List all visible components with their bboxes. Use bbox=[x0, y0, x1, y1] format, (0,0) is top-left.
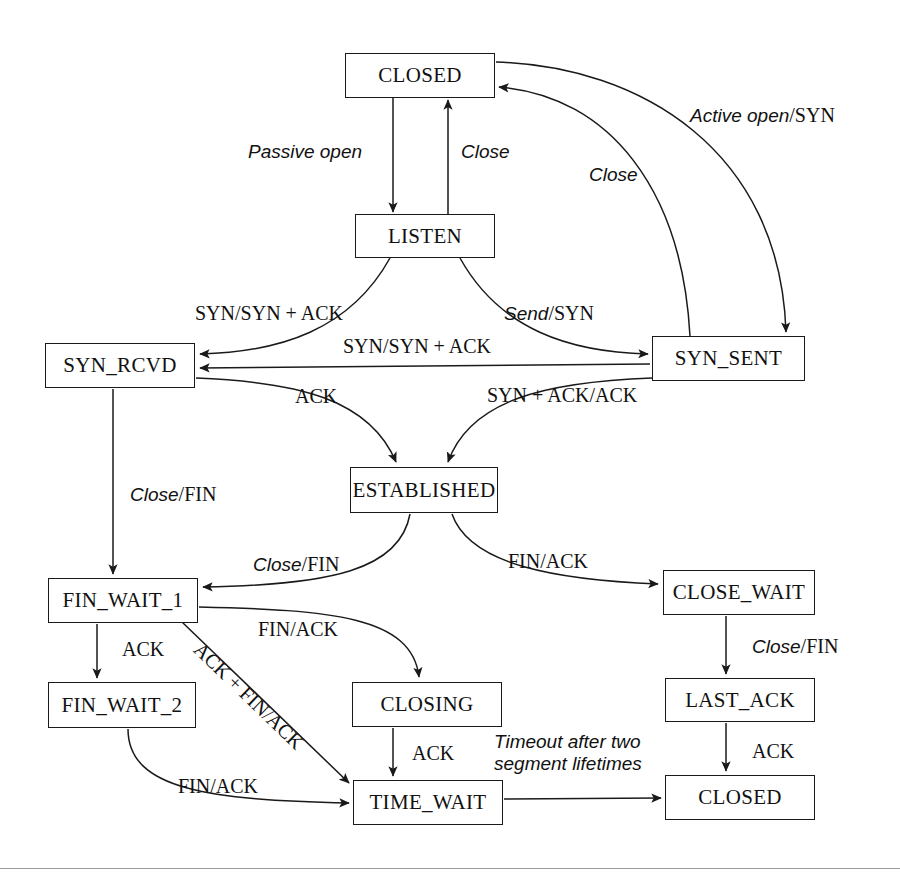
edge-label-syn-listen-text: SYN/SYN + ACK bbox=[195, 302, 343, 324]
edge-label-close-fin-cw: Close/FIN bbox=[752, 635, 838, 659]
edge-label-close-syn-sent-event: Close bbox=[589, 164, 638, 185]
edge-label-fin-ack-closing-text: FIN/ACK bbox=[258, 618, 338, 640]
edge-label-ack-closing-tw: ACK bbox=[412, 742, 454, 766]
state-closed-top[interactable]: CLOSED bbox=[345, 53, 495, 98]
state-fin-wait-1[interactable]: FIN_WAIT_1 bbox=[48, 578, 198, 623]
edge-label-passive-open: Passive open bbox=[248, 140, 362, 164]
edge-label-ack-established: ACK bbox=[295, 385, 337, 409]
edge-label-send-syn-event: Send bbox=[504, 303, 548, 324]
edge-active-open bbox=[496, 62, 786, 332]
edge-label-fin-ack-closing: FIN/ACK bbox=[258, 618, 338, 642]
edge-label-fin-ack-tw-text: FIN/ACK bbox=[178, 775, 258, 797]
edge-label-fin-ack-estab-text: FIN/ACK bbox=[508, 550, 588, 572]
edge-label-close-fin-rcvd-action: /FIN bbox=[179, 483, 217, 505]
edge-label-close-syn-sent: Close bbox=[589, 163, 638, 187]
edge-label-syn-ack-ack-text: SYN + ACK/ACK bbox=[487, 384, 637, 406]
state-time-wait[interactable]: TIME_WAIT bbox=[353, 780, 503, 825]
edge-label-ack-last-text: ACK bbox=[752, 740, 794, 762]
edge-label-ack-fw2: ACK bbox=[122, 638, 164, 662]
state-fin-wait-2[interactable]: FIN_WAIT_2 bbox=[48, 682, 196, 728]
edge-label-active-open: Active open/SYN bbox=[690, 104, 835, 128]
tcp-state-diagram: CLOSED LISTEN SYN_RCVD SYN_SENT ESTABLIS… bbox=[0, 0, 900, 877]
edge-label-syn-listen: SYN/SYN + ACK bbox=[195, 302, 343, 326]
edge-label-timeout: Timeout after two segment lifetimes bbox=[494, 731, 709, 776]
state-established[interactable]: ESTABLISHED bbox=[350, 467, 498, 513]
page-bottom-rule bbox=[0, 868, 900, 869]
edge-label-close-fin-rcvd-event: Close bbox=[130, 484, 179, 505]
edge-label-active-open-event: Active open bbox=[690, 105, 789, 126]
edge-label-active-open-action: /SYN bbox=[789, 104, 835, 126]
edge-label-syn-syn-sent: SYN/SYN + ACK bbox=[343, 335, 491, 359]
edge-label-send-syn: Send/SYN bbox=[504, 302, 594, 326]
edge-label-syn-ack-ack: SYN + ACK/ACK bbox=[487, 384, 637, 408]
edge-close-syn-sent bbox=[499, 87, 690, 336]
edge-label-close-fin-cw-action: /FIN bbox=[801, 635, 839, 657]
edge-label-ack-established-text: ACK bbox=[295, 385, 337, 407]
edge-label-close-fin-cw-event: Close bbox=[752, 636, 801, 657]
edge-label-close-fin-estab: Close/FIN bbox=[253, 553, 339, 577]
state-syn-rcvd[interactable]: SYN_RCVD bbox=[45, 343, 195, 388]
edge-label-ack-last: ACK bbox=[752, 740, 794, 764]
edge-label-timeout-line1: Timeout after two bbox=[494, 731, 641, 752]
edge-label-timeout-line2: segment lifetimes bbox=[494, 753, 642, 774]
state-closed-bottom[interactable]: CLOSED bbox=[665, 775, 815, 820]
edge-syn-syn-sent bbox=[200, 364, 650, 368]
edge-label-close-listen: Close bbox=[461, 140, 510, 164]
edge-timeout bbox=[504, 798, 661, 799]
edge-label-close-fin-estab-action: /FIN bbox=[302, 553, 340, 575]
state-close-wait[interactable]: CLOSE_WAIT bbox=[663, 570, 815, 615]
edge-label-fin-ack-tw: FIN/ACK bbox=[178, 775, 258, 799]
edge-label-fin-ack-estab: FIN/ACK bbox=[508, 550, 588, 574]
state-listen[interactable]: LISTEN bbox=[355, 214, 495, 258]
edge-label-syn-syn-sent-text: SYN/SYN + ACK bbox=[343, 335, 491, 357]
edge-label-send-syn-action: /SYN bbox=[548, 302, 594, 324]
edge-label-passive-open-event: Passive open bbox=[248, 141, 362, 162]
edge-label-close-fin-rcvd: Close/FIN bbox=[130, 483, 216, 507]
edge-label-close-fin-estab-event: Close bbox=[253, 554, 302, 575]
state-last-ack[interactable]: LAST_ACK bbox=[665, 678, 815, 722]
edge-label-ack-fw2-text: ACK bbox=[122, 638, 164, 660]
state-closing[interactable]: CLOSING bbox=[352, 682, 502, 727]
edge-label-close-listen-event: Close bbox=[461, 141, 510, 162]
state-syn-sent[interactable]: SYN_SENT bbox=[652, 336, 805, 381]
edge-label-ack-closing-tw-text: ACK bbox=[412, 742, 454, 764]
